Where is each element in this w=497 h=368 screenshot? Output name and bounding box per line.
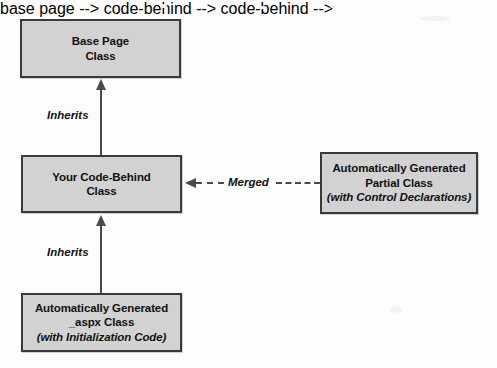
node-automatically-generated-aspx-class: Automatically Generated _aspx Class (wit… (21, 293, 182, 352)
scan-speckle (330, 5, 336, 8)
scan-speckle (390, 306, 402, 313)
node-aspx-class-line-3: (with Initialization Code) (37, 330, 167, 345)
node-your-code-behind-class: Your Code-Behind Class (21, 155, 182, 213)
node-aspx-class-line-2: _aspx Class (69, 315, 134, 330)
edge-label-inherits-lower: Inherits (47, 246, 89, 258)
inherits-connector-line-lower (100, 226, 102, 293)
node-base-page-class-line-2: Class (85, 49, 115, 64)
inherits-connector-line-upper (100, 89, 102, 155)
edge-label-merged: Merged (226, 176, 271, 188)
arrowhead-left-icon (185, 178, 196, 188)
node-aspx-class-line-1: Automatically Generated (35, 301, 168, 316)
merged-connector-dashed-right (276, 182, 320, 184)
merged-connector-dashed-left (196, 182, 224, 184)
scan-speckle (258, 6, 267, 9)
arrowhead-up-icon (96, 79, 106, 90)
node-base-page-class: Base Page Class (20, 19, 181, 78)
node-your-code-behind-class-line-2: Class (86, 184, 116, 199)
node-partial-class-line-1: Automatically Generated (332, 161, 465, 176)
node-your-code-behind-class-line-1: Your Code-Behind (52, 170, 151, 185)
arrowhead-up-icon (96, 215, 106, 226)
node-base-page-class-line-1: Base Page (72, 34, 129, 49)
scan-speckle (420, 16, 450, 21)
node-partial-class-line-3: (with Control Declarations) (327, 190, 471, 205)
node-automatically-generated-partial-class: Automatically Generated Partial Class (w… (320, 152, 478, 214)
node-partial-class-line-2: Partial Class (365, 176, 433, 191)
edge-label-inherits-upper: Inherits (47, 109, 89, 121)
diagram-canvas: Base Page Class Your Code-Behind Class A… (0, 0, 497, 368)
scan-speckle (160, 4, 167, 8)
